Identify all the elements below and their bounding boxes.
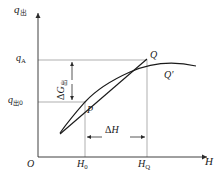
data-curves [60, 59, 196, 134]
figure-canvas: q出 H O qA q出0 H0 HQ P Q Q' ΔG出 ΔH [0, 0, 220, 177]
y-tick-label-qa: qA [16, 53, 26, 65]
x-tick-label-hq: HQ [138, 159, 150, 171]
point-label-q: Q [150, 50, 157, 60]
measurement-label-delta-h: ΔH [105, 125, 119, 135]
figure-svg [0, 0, 220, 177]
point-label-q-prime: Q' [164, 70, 173, 80]
y-axis-label: q出 [14, 4, 27, 17]
x-tick-label-h0: H0 [77, 159, 88, 171]
origin-label: O [27, 159, 34, 169]
characteristic-curve [60, 63, 196, 133]
x-axis-label: H [205, 156, 213, 167]
tangent-line [60, 59, 147, 134]
y-tick-label-qc0: q出0 [8, 95, 23, 106]
point-label-p: P [87, 105, 93, 115]
measurement-label-delta-g: ΔG出 [56, 80, 67, 100]
